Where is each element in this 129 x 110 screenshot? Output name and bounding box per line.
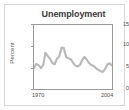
y-tick-label-10: 10 bbox=[117, 41, 129, 47]
y-tick-label-15: 15 bbox=[117, 21, 129, 27]
y-tick-label-5: 5 bbox=[117, 63, 129, 69]
chart-title: Unemployment bbox=[33, 9, 114, 20]
y-axis-title: Percent bbox=[9, 33, 15, 73]
x-tick-label-end: 2004 bbox=[101, 92, 113, 99]
unemployment-chart-thumbnail: Unemployment Percent 15 10 5 0 1970 2004 bbox=[0, 0, 129, 110]
unemployment-line-series bbox=[34, 25, 112, 89]
x-tick-label-start: 1970 bbox=[32, 92, 44, 99]
y-tick-label-0: 0 bbox=[117, 85, 129, 91]
plot-area bbox=[33, 24, 113, 90]
